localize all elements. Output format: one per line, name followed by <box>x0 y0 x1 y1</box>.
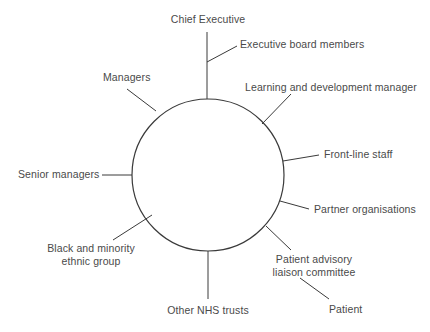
spoke-line-patient-advisory-liaison-committee <box>266 226 291 250</box>
stakeholder-diagram: Chief Executive Executive board members … <box>0 0 430 332</box>
node-label-learning-and-development-manager: Learning and development manager <box>245 81 430 94</box>
node-label-chief-executive: Chief Executive <box>145 13 271 26</box>
spoke-line-executive-board-members <box>207 46 237 62</box>
spoke-line-front-line-staff <box>283 155 319 161</box>
node-label-senior-managers: Senior managers <box>18 168 118 181</box>
node-label-black-and-minority-ethnic-group: Black and minority ethnic group <box>27 242 155 267</box>
spoke-line-black-and-minority-ethnic-group <box>113 215 152 240</box>
node-label-front-line-staff: Front-line staff <box>324 148 429 161</box>
spoke-line-managers <box>127 89 156 111</box>
node-label-executive-board-members: Executive board members <box>240 38 420 51</box>
node-label-patient: Patient <box>329 303 419 316</box>
spoke-line-partner-organisations <box>280 201 309 209</box>
node-label-managers: Managers <box>103 71 183 84</box>
node-label-partner-organisations: Partner organisations <box>314 203 429 216</box>
node-label-other-nhs-trusts: Other NHS trusts <box>145 304 271 317</box>
spoke-line-learning-and-development-manager <box>262 94 291 124</box>
spoke-line-patient <box>300 278 329 299</box>
hub-circle <box>132 99 284 251</box>
node-label-patient-advisory-liaison-committee: Patient advisory liaison committee <box>252 253 376 278</box>
